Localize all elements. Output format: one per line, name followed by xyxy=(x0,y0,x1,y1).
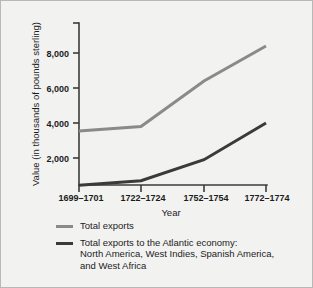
legend-label-atlantic-economy: Total exports to the Atlantic economy: N… xyxy=(80,237,274,272)
y-axis-title: Value (in thousands of pounds sterling) xyxy=(30,22,41,186)
legend-item-atlantic-economy: Total exports to the Atlantic economy: N… xyxy=(56,237,306,272)
x-tick-label-2: 1752–1754 xyxy=(183,193,228,203)
series-line-total-exports xyxy=(79,46,266,131)
chart-figure: 2,000 4,000 6,000 8,000 1699–1701 1722–1… xyxy=(0,0,313,288)
y-tick-label-4000: 4,000 xyxy=(46,119,69,129)
x-axis-ticks xyxy=(79,185,266,192)
x-axis-title: Year xyxy=(161,207,180,218)
x-tick-label-0: 1699–1701 xyxy=(58,193,103,203)
series-line-atlantic-economy xyxy=(79,123,266,185)
chart-legend: Total exports Total exports to the Atlan… xyxy=(56,220,306,276)
legend-item-total-exports: Total exports xyxy=(56,220,306,232)
x-tick-label-1: 1722–1724 xyxy=(120,193,165,203)
legend-label-total-exports: Total exports xyxy=(80,220,134,232)
legend-swatch-total-exports xyxy=(56,225,73,228)
y-tick-label-8000: 8,000 xyxy=(46,49,69,59)
y-axis-ticks xyxy=(73,23,79,158)
legend-swatch-atlantic-economy xyxy=(56,242,73,245)
x-tick-label-3: 1772–1774 xyxy=(244,193,289,203)
y-tick-label-6000: 6,000 xyxy=(46,84,69,94)
y-tick-label-2000: 2,000 xyxy=(46,154,69,164)
